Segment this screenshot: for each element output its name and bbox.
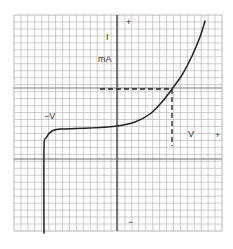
iv-characteristic-chart	[0, 0, 233, 249]
voltage-label: V	[188, 130, 194, 139]
bottom-minus-sign: −	[128, 218, 133, 227]
negative-voltage-label: −V	[44, 112, 55, 121]
current-label: I	[106, 33, 109, 42]
graph-paper-grid	[14, 15, 222, 231]
right-plus-sign: +	[215, 131, 220, 140]
diode-curve	[44, 21, 205, 233]
current-unit-label: mA	[98, 55, 112, 64]
top-plus-sign: +	[126, 18, 131, 27]
